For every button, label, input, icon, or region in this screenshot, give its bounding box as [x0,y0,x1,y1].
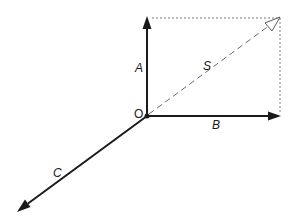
label-c: C [53,166,62,180]
label-b: B [212,118,220,132]
label-origin: O [134,107,143,121]
origin-point [145,114,150,119]
vector-diagram: O A S B C [0,0,293,222]
label-a: A [134,61,143,75]
vector-c-arrowhead-icon [17,200,31,213]
vector-s-arrowhead-icon [265,17,280,31]
label-s: S [203,59,211,73]
vector-a-arrowhead-icon [143,16,152,29]
vector-c-line [28,116,147,204]
vector-b-arrowhead-icon [268,112,281,121]
